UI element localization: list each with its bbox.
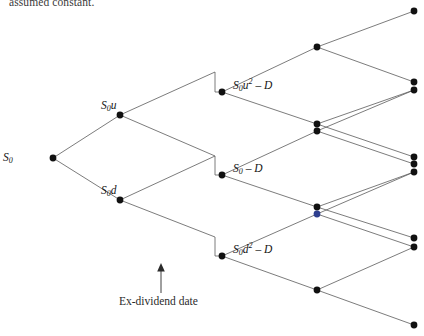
node-label-s0d2-minus-d: S0d2 – D xyxy=(233,244,272,256)
tree-node xyxy=(314,44,321,51)
edge xyxy=(120,200,215,237)
tree-node xyxy=(411,8,418,15)
edge xyxy=(317,207,414,238)
tree-node-highlight xyxy=(314,211,321,218)
tree-node xyxy=(411,235,418,242)
edge xyxy=(222,175,317,207)
edge xyxy=(317,172,414,207)
node-label-s0-minus-d: S0 – D xyxy=(233,163,263,175)
tree-node xyxy=(219,172,226,179)
edge xyxy=(317,247,414,290)
tree-node xyxy=(314,287,321,294)
tree-node xyxy=(411,244,418,251)
tree-node xyxy=(411,154,418,161)
edge xyxy=(317,290,414,325)
tree-node xyxy=(314,121,321,128)
tree-node xyxy=(411,87,418,94)
edge xyxy=(317,11,414,47)
arrow-up-icon xyxy=(157,263,165,272)
edge xyxy=(317,131,414,164)
tree-node xyxy=(117,112,124,119)
tree-node-root xyxy=(50,155,57,162)
tree-node xyxy=(314,204,321,211)
edge xyxy=(222,92,317,124)
ex-dividend-date-caption: Ex-dividend date xyxy=(119,295,198,307)
tree-node xyxy=(411,161,418,168)
node-label-s0d: S0d xyxy=(101,185,117,197)
node-label-s0u2-minus-d: S0u2 – D xyxy=(233,80,272,92)
tree-node xyxy=(314,128,321,135)
tree-node xyxy=(219,253,226,260)
edge xyxy=(120,72,215,115)
edge xyxy=(317,124,414,157)
edge xyxy=(317,214,414,247)
edge xyxy=(317,90,414,131)
edge xyxy=(120,115,215,156)
edge xyxy=(120,156,215,200)
edge xyxy=(317,172,414,214)
edge xyxy=(53,115,120,158)
edge xyxy=(317,90,414,124)
tree-node xyxy=(117,197,124,204)
node-label-s0: S0 xyxy=(3,152,13,164)
edge xyxy=(317,47,414,82)
tree-node xyxy=(411,322,418,329)
edge xyxy=(222,256,317,290)
binomial-tree-canvas xyxy=(0,0,424,336)
tree-node xyxy=(411,169,418,176)
node-label-s0u: S0u xyxy=(101,100,117,112)
tree-node xyxy=(219,89,226,96)
ex-dividend-arrow xyxy=(157,263,165,293)
tree-node xyxy=(411,79,418,86)
binomial-tree-figure: assumed constant. xyxy=(0,0,424,336)
